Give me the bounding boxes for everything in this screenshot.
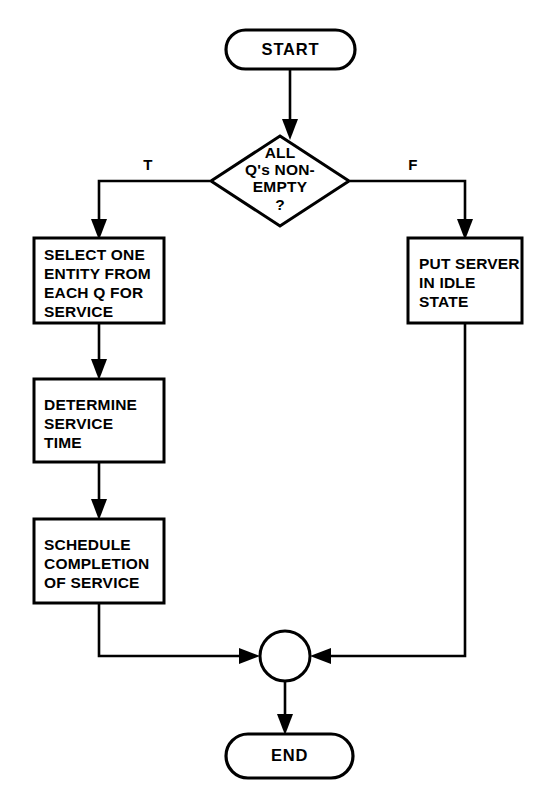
edge-label-true: T bbox=[140, 157, 156, 174]
node-start-label: START bbox=[226, 40, 355, 58]
edge-decision-true bbox=[91, 181, 210, 240]
node-merge-junction-shape bbox=[260, 631, 310, 681]
edge-select-to-determine bbox=[91, 323, 107, 380]
node-put-server-idle-line-1: PUT SERVER bbox=[419, 255, 529, 273]
node-decision-line-2: Q's NON- bbox=[205, 161, 355, 178]
node-schedule-completion-line-1: SCHEDULE bbox=[44, 536, 168, 554]
node-schedule-completion-line-2: COMPLETION bbox=[44, 555, 168, 573]
node-end-label: END bbox=[226, 746, 353, 764]
node-select-entity-line-1: SELECT ONE bbox=[44, 246, 164, 264]
node-determine-service-time-line-1: DETERMINE bbox=[44, 396, 164, 414]
edge-start-to-decision bbox=[282, 69, 298, 140]
edge-merge-to-end bbox=[277, 681, 293, 735]
node-decision-line-1: ALL bbox=[205, 144, 355, 161]
node-determine-service-time-line-3: TIME bbox=[44, 434, 164, 452]
node-select-entity-line-4: SERVICE bbox=[44, 303, 164, 321]
flowchart-canvas: START ALL Q's NON- EMPTY ? T F SELECT ON… bbox=[0, 0, 560, 800]
node-schedule-completion-line-3: OF SERVICE bbox=[44, 574, 168, 592]
node-decision-line-3: EMPTY bbox=[205, 178, 355, 195]
edge-determine-to-schedule bbox=[91, 462, 107, 520]
node-select-entity-line-2: ENTITY FROM bbox=[44, 265, 164, 283]
node-determine-service-time-line-2: SERVICE bbox=[44, 415, 164, 433]
edge-idle-to-merge bbox=[310, 323, 465, 664]
node-select-entity-line-3: EACH Q FOR bbox=[44, 284, 164, 302]
edge-decision-false bbox=[350, 181, 473, 240]
edge-schedule-to-merge bbox=[99, 603, 260, 664]
node-put-server-idle-line-3: STATE bbox=[419, 293, 529, 311]
node-decision-line-4: ? bbox=[205, 196, 355, 213]
node-put-server-idle-line-2: IN IDLE bbox=[419, 274, 529, 292]
edge-label-false: F bbox=[405, 157, 421, 174]
